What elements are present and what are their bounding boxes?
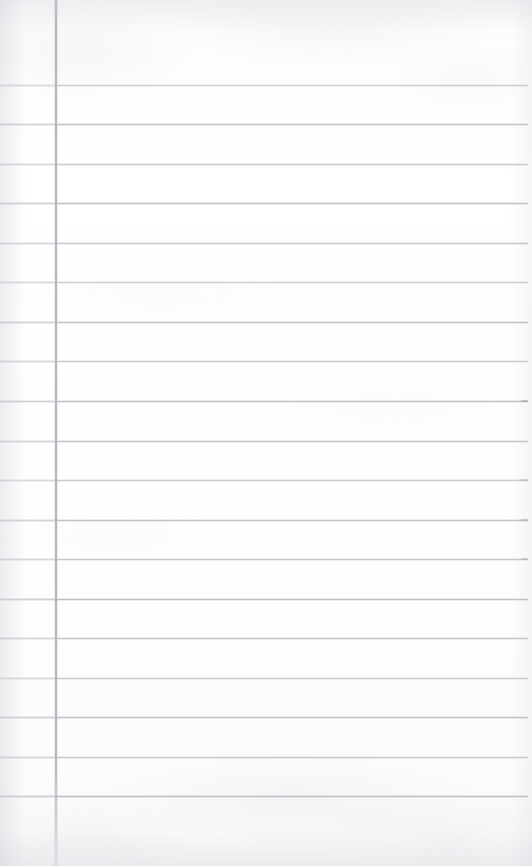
paper-edge-vignette	[0, 0, 532, 866]
notepad-page: Blank Lined Notepad Page	[0, 0, 532, 866]
